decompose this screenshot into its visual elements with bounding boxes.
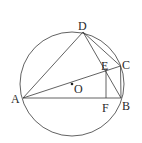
label-b: B bbox=[122, 99, 130, 113]
center-point-o bbox=[71, 83, 74, 86]
label-c: C bbox=[122, 58, 130, 72]
segment-cb bbox=[121, 66, 122, 98]
label-o: O bbox=[74, 82, 83, 96]
label-a: A bbox=[11, 92, 20, 106]
label-d: D bbox=[78, 19, 87, 33]
label-e: E bbox=[101, 59, 108, 73]
label-f: F bbox=[102, 101, 109, 115]
geometry-diagram: D C E A B F O bbox=[0, 0, 142, 143]
